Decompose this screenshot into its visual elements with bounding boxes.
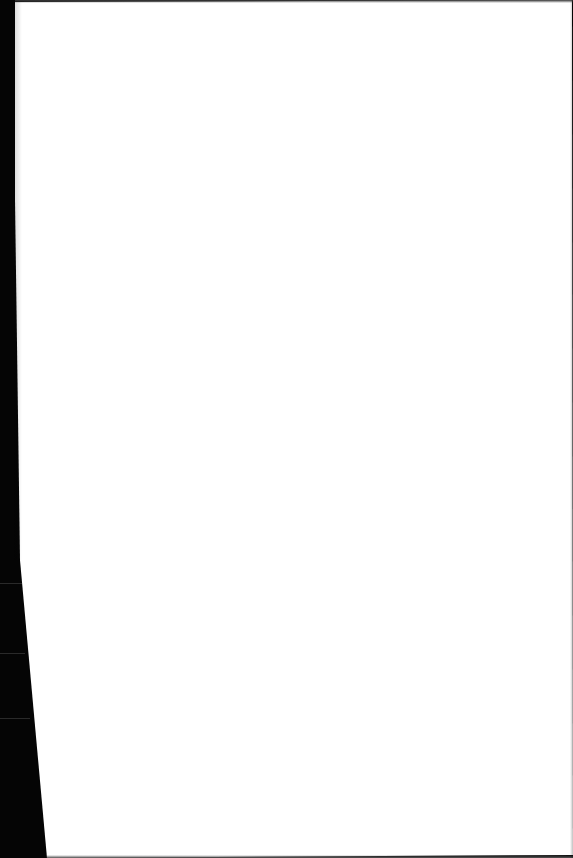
background-stripe [0,653,25,654]
paper-left-edge-shadow [14,0,22,560]
blank-paper-sheet [0,0,573,858]
paper-top-edge [15,0,573,3]
background-stripe [0,718,30,719]
background-stripe [0,583,22,584]
photo-scene [0,0,573,858]
